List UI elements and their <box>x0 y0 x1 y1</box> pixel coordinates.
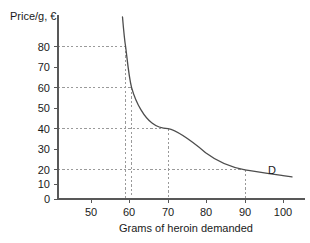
x-tick-label-50: 50 <box>85 206 97 218</box>
y-tick-label-80: 80 <box>38 41 50 53</box>
x-tick-label-70: 70 <box>162 206 174 218</box>
y-tick-label-20: 20 <box>38 164 50 176</box>
demand-curve-line <box>123 17 293 177</box>
y-axis-title: Price/g, € <box>10 10 56 22</box>
x-axis-title: Grams of heroin demanded <box>119 222 253 234</box>
x-tick-label-60: 60 <box>123 206 135 218</box>
x-tick-label-80: 80 <box>200 206 212 218</box>
x-axis-ticks <box>91 199 283 203</box>
y-axis-tick-labels: 80 70 60 50 40 30 20 10 0 <box>38 41 50 206</box>
y-tick-label-30: 30 <box>38 143 50 155</box>
vertical-guide-lines <box>126 47 246 200</box>
y-tick-label-60: 60 <box>38 82 50 94</box>
y-tick-label-10: 10 <box>38 178 50 190</box>
y-tick-label-40: 40 <box>38 123 50 135</box>
x-tick-label-90: 90 <box>239 206 251 218</box>
y-tick-label-0: 0 <box>44 193 50 205</box>
chart-canvas: 80 70 60 50 40 30 20 10 0 50 60 70 80 90… <box>0 0 310 243</box>
demand-curve-chart: 80 70 60 50 40 30 20 10 0 50 60 70 80 90… <box>0 0 310 243</box>
curve-label-d: D <box>268 164 276 176</box>
horizontal-guide-lines <box>58 47 245 170</box>
y-tick-label-70: 70 <box>38 61 50 73</box>
y-tick-label-50: 50 <box>38 102 50 114</box>
x-axis-tick-labels: 50 60 70 80 90 100 <box>85 206 292 218</box>
x-tick-label-100: 100 <box>274 206 292 218</box>
